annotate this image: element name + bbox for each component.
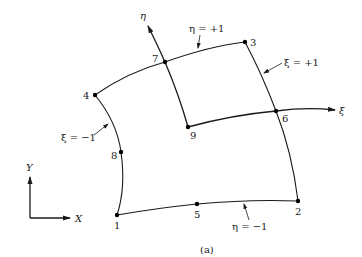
xi-axis xyxy=(188,109,335,127)
xi-axis-label: ξ xyxy=(339,105,345,116)
leader-xi-plus xyxy=(264,63,282,73)
global-x-label: X xyxy=(74,213,83,224)
leader-eta-plus xyxy=(198,35,200,48)
node-9 xyxy=(186,125,190,129)
label-eta-minus: η = −1 xyxy=(232,221,267,232)
label-eta-plus: η = +1 xyxy=(189,23,224,34)
node-label-5: 5 xyxy=(194,209,200,220)
node-6 xyxy=(274,109,278,113)
edge-eta-minus xyxy=(117,200,298,215)
global-y-label: Y xyxy=(26,162,34,173)
quadratic-element-diagram: 1 2 3 4 5 6 7 8 9 η ξ η = +1 ξ = +1 η = … xyxy=(0,0,362,257)
node-label-2: 2 xyxy=(295,206,301,217)
node-3 xyxy=(243,40,247,44)
node-2 xyxy=(296,199,300,203)
figure-caption: (a) xyxy=(200,244,214,255)
edge-xi-minus xyxy=(95,95,123,215)
node-5 xyxy=(195,202,199,206)
node-1 xyxy=(115,213,119,217)
node-label-3: 3 xyxy=(250,37,256,48)
label-xi-plus: ξ = +1 xyxy=(284,57,319,68)
eta-axis xyxy=(148,26,188,127)
label-xi-minus: ξ = −1 xyxy=(61,132,96,143)
eta-axis-label: η xyxy=(140,10,146,21)
edge-eta-plus xyxy=(95,42,245,95)
node-7 xyxy=(163,60,167,64)
node-label-9: 9 xyxy=(190,130,196,141)
node-label-6: 6 xyxy=(282,113,288,124)
leader-eta-minus xyxy=(244,204,249,220)
node-8 xyxy=(119,150,123,154)
node-4 xyxy=(93,93,97,97)
node-label-8: 8 xyxy=(111,150,117,161)
node-label-4: 4 xyxy=(83,90,89,101)
node-label-7: 7 xyxy=(152,53,158,64)
leader-xi-minus xyxy=(94,124,108,135)
node-label-1: 1 xyxy=(114,220,120,231)
